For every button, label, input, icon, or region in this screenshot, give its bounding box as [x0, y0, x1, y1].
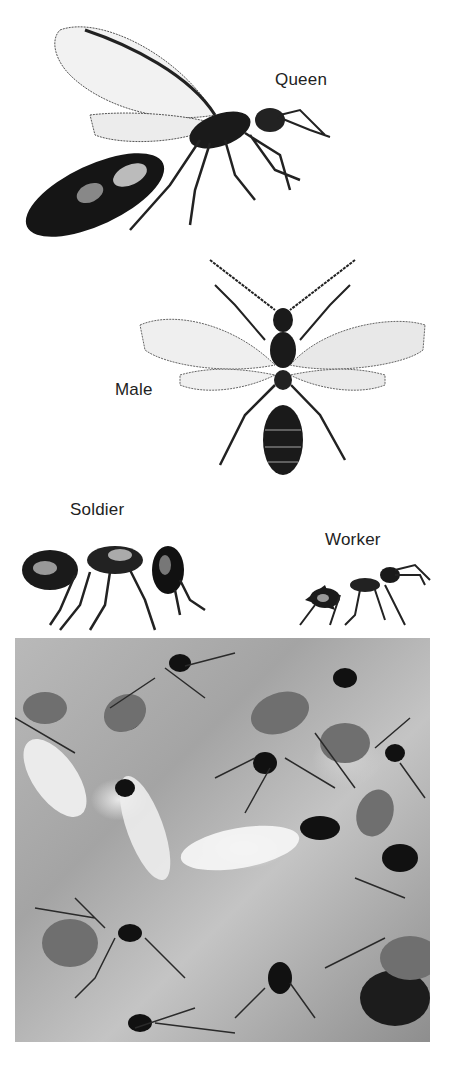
queen-illustration: [10, 15, 340, 245]
worker-label: Worker: [325, 530, 381, 550]
colony-photograph: [15, 638, 430, 1042]
soldier-illustration: [20, 530, 210, 635]
worker-illustration: [295, 560, 435, 635]
male-label: Male: [115, 380, 153, 400]
queen-label: Queen: [275, 70, 327, 90]
soldier-label: Soldier: [70, 500, 124, 520]
male-illustration: [135, 255, 430, 485]
